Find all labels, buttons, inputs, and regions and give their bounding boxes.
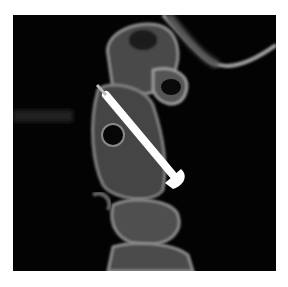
ct-scan-graphic: [13, 15, 276, 271]
vertebra-c3: [93, 194, 179, 245]
vertebra-c2: [93, 85, 165, 199]
ct-scan-image: [13, 15, 276, 271]
vertebra-c4: [108, 243, 193, 271]
occipital-contour: [163, 15, 276, 66]
